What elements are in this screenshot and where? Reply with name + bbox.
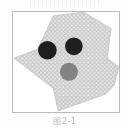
scan-artifact-top <box>30 0 100 6</box>
left-eye-circle <box>38 41 57 60</box>
figure-caption: 图2-1 <box>0 116 130 127</box>
right-eye-circle <box>65 37 83 55</box>
figure-container: 图2-1 <box>0 0 130 129</box>
mouth-circle <box>60 63 78 81</box>
star-polygon <box>14 12 119 111</box>
figure-frame <box>12 11 120 113</box>
figure-illustration <box>13 12 119 112</box>
